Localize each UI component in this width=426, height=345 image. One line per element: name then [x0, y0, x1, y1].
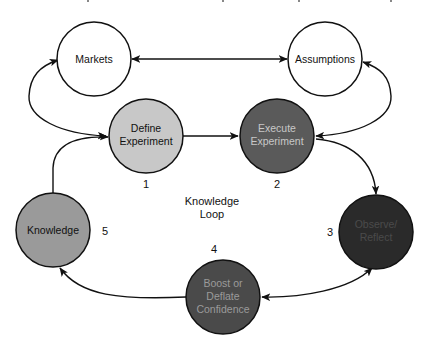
node-assumptions: Assumptions: [288, 22, 362, 96]
center-label-line2: Loop: [200, 208, 224, 220]
step-number-5: 5: [102, 225, 108, 237]
step-number-4: 4: [211, 243, 217, 255]
node-boost-label-line3: Confidence: [196, 303, 249, 315]
node-observe-reflect-label-line2: Reflect: [360, 231, 393, 243]
center-label: Knowledge Loop: [185, 195, 239, 220]
edge-boost-knowledge: [60, 268, 186, 298]
node-markets: Markets: [57, 22, 131, 96]
edge-knowledge-define: [53, 137, 108, 194]
node-observe-reflect-label-line1: Observe/: [355, 218, 398, 230]
node-markets-label: Markets: [75, 53, 112, 65]
node-define-experiment-label-line1: Define: [131, 122, 162, 134]
node-execute-experiment: Execute Experiment 2: [240, 99, 314, 190]
node-boost-deflate-confidence: Boost or Deflate Confidence 4: [186, 243, 260, 334]
node-knowledge: Knowledge 5: [16, 193, 108, 267]
node-define-experiment-label-line2: Experiment: [119, 135, 172, 147]
edge-observe-boost: [262, 268, 372, 297]
node-execute-experiment-label-line1: Execute: [258, 122, 296, 134]
step-number-3: 3: [327, 226, 333, 238]
edge-execute-observe: [316, 139, 376, 194]
knowledge-loop-diagram: Markets Assumptions Define Experiment 1 …: [0, 0, 426, 345]
node-assumptions-label: Assumptions: [295, 53, 355, 65]
node-boost-label-line2: Deflate: [206, 290, 239, 302]
node-knowledge-label: Knowledge: [27, 224, 79, 236]
step-number-2: 2: [274, 178, 280, 190]
step-number-1: 1: [143, 178, 149, 190]
node-boost-label-line1: Boost or: [203, 277, 243, 289]
node-execute-experiment-label-line2: Experiment: [250, 135, 303, 147]
node-define-experiment: Define Experiment 1: [109, 99, 183, 190]
center-label-line1: Knowledge: [185, 195, 239, 207]
node-observe-reflect: Observe/ Reflect 3: [327, 195, 413, 269]
top-text-fragments: [87, 0, 392, 2]
